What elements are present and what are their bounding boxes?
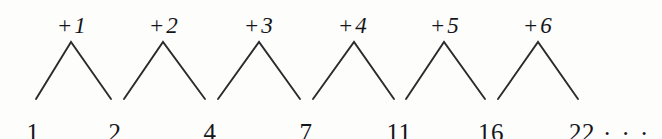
zigzag-connector-lines (0, 0, 662, 139)
increment-amount: 2 (166, 13, 178, 38)
plus-sign-icon: + (245, 13, 261, 38)
plus-sign-icon: + (431, 13, 447, 38)
plus-sign-icon: + (524, 13, 540, 38)
chevron-2 (124, 42, 205, 99)
term-label-5: 11 (386, 120, 411, 139)
increment-label-3: +3 (245, 14, 272, 37)
term-label-2: 2 (109, 120, 122, 139)
plus-sign-icon: + (339, 13, 355, 38)
sequence-diagram: 1 2 4 7 11 16 22 +1 +2 +3 +4 +5 +6 . . . (0, 0, 662, 139)
increment-label-5: +5 (431, 14, 458, 37)
plus-sign-icon: + (150, 13, 166, 38)
term-label-1: 1 (27, 120, 40, 139)
continuation-ellipsis: . . . (604, 114, 650, 139)
increment-amount: 5 (447, 13, 459, 38)
increment-amount: 4 (355, 13, 367, 38)
chevron-5 (406, 42, 485, 99)
chevron-1 (36, 42, 111, 99)
chevron-3 (218, 42, 300, 99)
increment-label-6: +6 (524, 14, 551, 37)
term-label-6: 16 (478, 120, 504, 139)
plus-sign-icon: + (58, 13, 74, 38)
increment-amount: 6 (540, 13, 552, 38)
chevron-4 (313, 42, 394, 99)
increment-label-4: +4 (339, 14, 366, 37)
increment-label-1: +1 (58, 14, 85, 37)
increment-amount: 3 (261, 13, 273, 38)
chevron-6 (498, 42, 578, 99)
increment-label-2: +2 (150, 14, 177, 37)
term-label-3: 4 (204, 120, 217, 139)
term-label-4: 7 (300, 120, 313, 139)
increment-amount: 1 (74, 13, 86, 38)
term-label-7: 22 (569, 120, 595, 139)
